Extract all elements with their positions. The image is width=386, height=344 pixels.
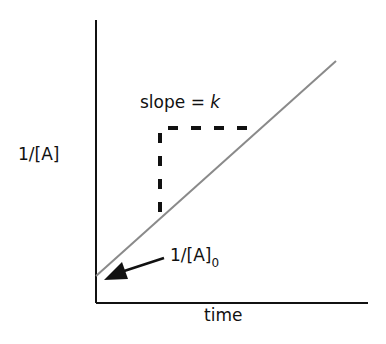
x-axis-label: time: [204, 305, 242, 325]
intercept-label-subscript: 0: [211, 256, 219, 270]
intercept-label-main: 1/[A]: [170, 245, 211, 265]
slope-label-prefix: slope =: [140, 92, 210, 112]
intercept-label: 1/[A]0: [170, 245, 219, 265]
slope-triangle-dashed: [160, 128, 258, 212]
slope-label-k: k: [210, 92, 220, 112]
diagram-canvas: [0, 0, 386, 344]
y-axis-label: 1/[A]: [18, 144, 59, 164]
slope-label: slope = k: [140, 92, 220, 112]
